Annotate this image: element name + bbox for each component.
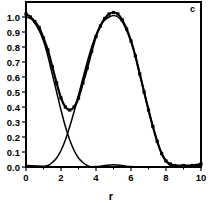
- y-tick-label: 0.3: [7, 117, 20, 128]
- x-tick-label: 8: [163, 172, 168, 183]
- plot-border: [26, 2, 201, 167]
- series-line-0: [26, 13, 201, 166]
- x-axis: 0246810: [23, 167, 206, 183]
- data-point-marker: [64, 105, 67, 108]
- data-point-marker: [55, 81, 58, 84]
- y-tick-label: 0.8: [7, 42, 20, 53]
- y-tick-label: 0.5: [7, 87, 21, 98]
- y-tick-label: 0.7: [7, 57, 20, 68]
- x-tick-label: 4: [93, 172, 99, 183]
- plot-frame: [26, 2, 201, 167]
- y-tick-label: 0.9: [7, 27, 20, 38]
- x-tick-label: 2: [58, 172, 63, 183]
- series-line-2: [44, 16, 175, 168]
- x-tick-label: 10: [196, 172, 207, 183]
- y-tick-label: 0.4: [7, 102, 21, 113]
- panel-label: c: [190, 4, 195, 14]
- x-axis-title: r: [109, 190, 114, 202]
- data-point-marker: [59, 96, 62, 99]
- y-tick-label: 0.0: [7, 162, 20, 173]
- series-layer: [24, 11, 202, 167]
- data-point-marker: [68, 108, 71, 111]
- data-point-marker: [24, 12, 27, 15]
- y-tick-label: 0.2: [7, 132, 20, 143]
- y-axis: 0.00.10.20.30.40.50.60.70.80.91.0: [7, 12, 26, 173]
- y-tick-label: 1.0: [7, 12, 20, 23]
- data-point-marker: [112, 11, 115, 14]
- y-tick-label: 0.1: [7, 147, 21, 158]
- x-tick-label: 6: [128, 172, 133, 183]
- series-line-1: [26, 17, 96, 167]
- data-point-marker: [108, 12, 111, 15]
- y-tick-label: 0.6: [7, 72, 20, 83]
- x-tick-label: 0: [23, 172, 28, 183]
- data-point-marker: [116, 12, 119, 15]
- line-chart: 0.00.10.20.30.40.50.60.70.80.91.0 024681…: [0, 0, 210, 203]
